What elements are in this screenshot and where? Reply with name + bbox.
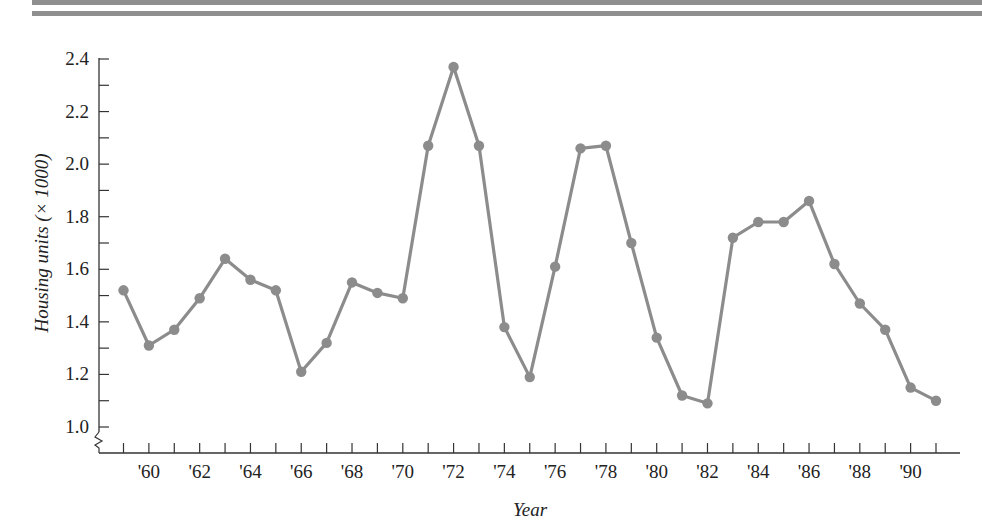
y-tick-label: 1.8 — [65, 206, 89, 227]
data-point — [347, 277, 357, 287]
data-point — [804, 196, 814, 206]
x-tick-label: '70 — [392, 461, 414, 482]
y-tick-label: 1.6 — [65, 258, 89, 279]
x-tick-label: '76 — [544, 461, 566, 482]
data-point — [321, 338, 331, 348]
data-point — [118, 285, 128, 295]
x-tick-label: '82 — [696, 461, 718, 482]
x-axis-title: Year — [513, 499, 548, 520]
data-point — [296, 367, 306, 377]
x-tick-label: '88 — [849, 461, 871, 482]
data-point — [448, 62, 458, 72]
data-point — [372, 288, 382, 298]
data-point — [220, 254, 230, 264]
data-point — [778, 217, 788, 227]
data-point — [398, 293, 408, 303]
data-point — [728, 233, 738, 243]
x-tick-label: '84 — [747, 461, 770, 482]
data-point — [753, 217, 763, 227]
y-axis-ticks: 1.01.21.41.61.82.02.22.4 — [65, 48, 109, 437]
y-tick-label: 2.2 — [65, 101, 89, 122]
y-tick-label: 1.0 — [65, 416, 89, 437]
data-point — [880, 325, 890, 335]
data-point — [829, 259, 839, 269]
line-chart: 1.01.21.41.61.82.02.22.4 '60'62'64'66'68… — [0, 0, 982, 530]
x-tick-label: '80 — [645, 461, 667, 482]
data-point — [423, 141, 433, 151]
axis-break-icon — [95, 432, 102, 453]
x-tick-label: '60 — [138, 461, 160, 482]
x-tick-label: '66 — [290, 461, 312, 482]
y-tick-label: 1.4 — [65, 311, 89, 332]
data-point — [855, 298, 865, 308]
data-point — [194, 293, 204, 303]
data-point — [575, 143, 585, 153]
data-point — [525, 372, 535, 382]
data-point — [931, 396, 941, 406]
data-point — [601, 141, 611, 151]
data-point — [652, 332, 662, 342]
x-tick-label: '78 — [595, 461, 617, 482]
data-point — [550, 261, 560, 271]
x-tick-label: '72 — [442, 461, 464, 482]
data-point — [626, 238, 636, 248]
data-point — [905, 382, 915, 392]
x-tick-label: '74 — [493, 461, 516, 482]
data-series — [118, 62, 941, 409]
x-axis-ticks: '60'62'64'66'68'70'72'74'76'78'80'82'84'… — [124, 443, 937, 482]
data-point — [499, 322, 509, 332]
y-tick-label: 1.2 — [65, 363, 89, 384]
x-tick-label: '64 — [239, 461, 262, 482]
x-tick-label: '68 — [341, 461, 363, 482]
data-point — [144, 340, 154, 350]
x-tick-label: '90 — [899, 461, 921, 482]
y-tick-label: 2.0 — [65, 153, 89, 174]
data-point — [677, 390, 687, 400]
x-tick-label: '86 — [798, 461, 820, 482]
data-point — [245, 275, 255, 285]
data-point — [271, 285, 281, 295]
data-point — [474, 141, 484, 151]
data-point — [702, 398, 712, 408]
y-tick-label: 2.4 — [65, 48, 89, 69]
y-axis-title: Housing units (× 1000) — [31, 153, 53, 333]
series-line — [124, 67, 937, 403]
x-tick-label: '62 — [188, 461, 210, 482]
data-point — [169, 325, 179, 335]
